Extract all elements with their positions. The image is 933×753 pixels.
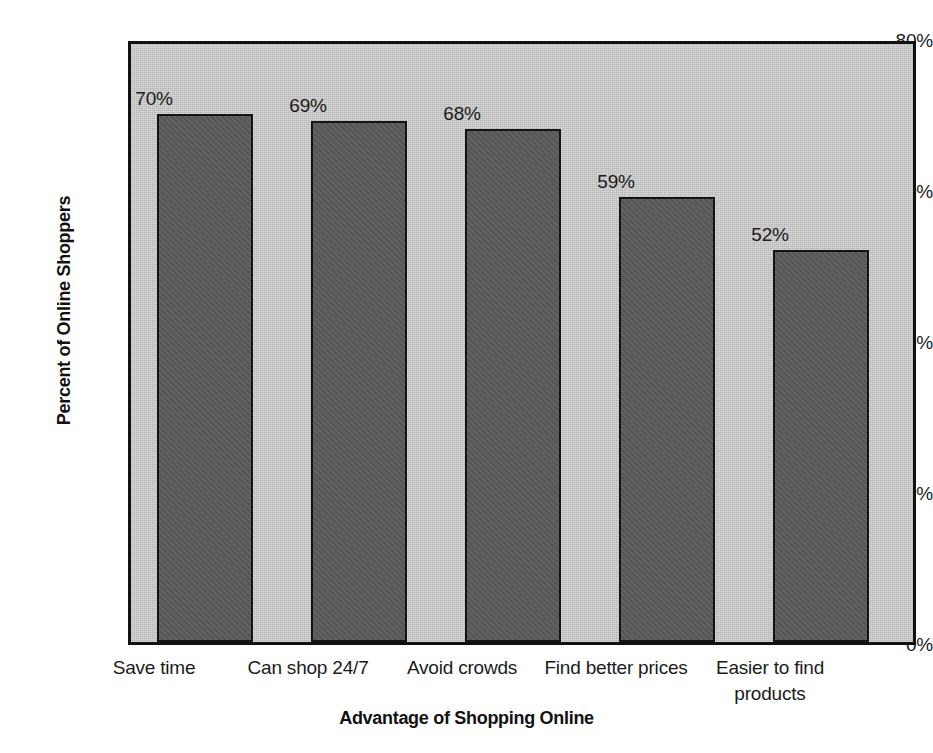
x-tick-label-find-better-prices: Find better prices — [538, 655, 694, 681]
x-axis-title: Advantage of Shopping Online — [0, 708, 933, 729]
bar-can-shop-247 — [311, 121, 407, 642]
bar-value-label-avoid-crowds: 68% — [414, 103, 510, 125]
x-tick-label-can-shop-247: Can shop 24/7 — [238, 655, 378, 681]
bar-value-label-find-better-prices: 59% — [568, 171, 664, 193]
x-tick-label-save-time: Save time — [84, 655, 224, 681]
bar-value-label-can-shop-247: 69% — [260, 95, 356, 117]
bar-easier-find-products — [773, 250, 869, 642]
x-tick-label-easier-find-products: Easier to find products — [710, 655, 830, 707]
bar-chart-figure: Percent of Online Shoppers 80% 60% 40% 2… — [0, 0, 933, 753]
bar-value-label-easier-find-products: 52% — [722, 224, 818, 246]
x-tick-label-avoid-crowds: Avoid crowds — [392, 655, 532, 681]
plot-area — [128, 41, 916, 645]
bar-avoid-crowds — [465, 129, 561, 642]
bar-save-time — [157, 114, 253, 642]
y-axis-title: Percent of Online Shoppers — [54, 171, 75, 451]
bar-value-label-save-time: 70% — [106, 88, 202, 110]
bar-find-better-prices — [619, 197, 715, 642]
